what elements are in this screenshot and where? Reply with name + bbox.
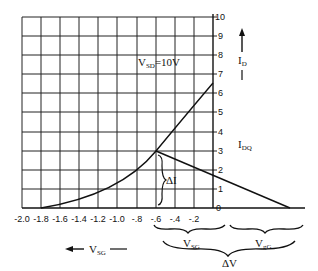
vsg-brace <box>154 225 225 233</box>
id-axis-label: ID <box>238 28 247 80</box>
delta-v-label: ΔV <box>222 257 237 269</box>
svg-text:1: 1 <box>218 184 223 194</box>
svg-text:-1.2: -1.2 <box>90 214 106 224</box>
svg-text:7: 7 <box>218 69 223 79</box>
svg-text:0: 0 <box>216 203 221 213</box>
svg-text:-1.6: -1.6 <box>52 214 68 224</box>
svg-text:9: 9 <box>218 31 223 41</box>
vsg-axis-arrow: VSG <box>65 243 127 257</box>
svg-text:2: 2 <box>218 165 223 175</box>
idq-label: IDQ <box>238 138 252 152</box>
svg-text:-.8: -.8 <box>132 214 143 224</box>
svg-text:-1.8: -1.8 <box>33 214 49 224</box>
svg-text:-.6: -.6 <box>151 214 162 224</box>
svg-text:-.2: -.2 <box>189 214 200 224</box>
svg-text:5: 5 <box>218 107 223 117</box>
svg-text:8: 8 <box>218 50 223 60</box>
delta-i-brace <box>158 155 166 205</box>
svg-text:3: 3 <box>218 146 223 156</box>
svg-text:VSG: VSG <box>89 243 106 257</box>
svg-text:-.4: -.4 <box>170 214 181 224</box>
svg-text:-1.0: -1.0 <box>109 214 125 224</box>
chart: -2.0 -1.8 -1.6 -1.4 -1.2 -1.0 -.8 -.6 -.… <box>0 0 318 271</box>
delta-i-label: ΔI <box>166 174 177 186</box>
vgg-brace <box>230 225 303 233</box>
svg-text:6: 6 <box>218 88 223 98</box>
svg-text:ID: ID <box>238 54 247 68</box>
x-tick-labels: -2.0 -1.8 -1.6 -1.4 -1.2 -1.0 -.8 -.6 -.… <box>14 214 199 224</box>
svg-text:-1.4: -1.4 <box>71 214 87 224</box>
vsd-annotation: VSD=10V <box>138 56 180 70</box>
svg-text:10: 10 <box>215 12 225 22</box>
svg-text:-2.0: -2.0 <box>14 214 30 224</box>
svg-text:4: 4 <box>218 127 223 137</box>
